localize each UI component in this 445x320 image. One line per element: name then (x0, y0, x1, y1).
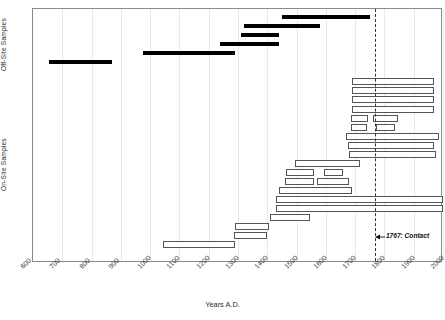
axis-label-off-site: Off-Site Samples (0, 6, 14, 84)
contact-vline (375, 9, 376, 261)
range-bar (282, 15, 370, 19)
range-bar (241, 33, 279, 37)
gridline-1600 (326, 9, 327, 261)
gridline-1500 (297, 9, 298, 261)
plot-area: 1767: Contact (32, 8, 442, 262)
gridline-1200 (209, 9, 210, 261)
range-bar (279, 187, 352, 194)
range-bar (351, 124, 367, 131)
range-bar (143, 51, 235, 55)
range-bar (49, 60, 112, 64)
range-bar (276, 196, 443, 203)
range-bar (270, 214, 310, 221)
range-bar (295, 160, 359, 167)
range-bar (220, 42, 279, 46)
range-bar (285, 178, 314, 185)
x-axis-title: Years A.D. (0, 300, 445, 309)
gridline-1100 (179, 9, 180, 261)
gridline-700 (62, 9, 63, 261)
range-bar (235, 223, 269, 230)
range-bar (376, 124, 395, 131)
range-bar (351, 115, 369, 122)
contact-annotation-label: 1767: Contact (386, 232, 429, 239)
range-bar (352, 78, 434, 85)
range-bar (324, 169, 343, 176)
gridline-2000 (443, 9, 444, 261)
range-bar (276, 205, 443, 212)
range-bar (317, 178, 349, 185)
range-bar (234, 232, 268, 239)
range-bar (286, 169, 314, 176)
chart-root: Off-Site Samples On-Site Samples 1767: C… (0, 0, 445, 320)
axis-label-on-site: On-Site Samples (0, 110, 14, 220)
gridline-800 (92, 9, 93, 261)
range-bar (352, 96, 434, 103)
contact-arrow-icon (375, 234, 385, 240)
range-bar (348, 142, 434, 149)
range-bar (346, 133, 438, 140)
range-bar (349, 151, 435, 158)
range-bar (373, 115, 398, 122)
range-bar (352, 87, 434, 94)
gridline-900 (121, 9, 122, 261)
gridline-1000 (150, 9, 151, 261)
range-bar (244, 24, 320, 28)
range-bar (163, 241, 235, 248)
range-bar (352, 106, 434, 113)
x-tick-600: 600 (19, 257, 32, 270)
